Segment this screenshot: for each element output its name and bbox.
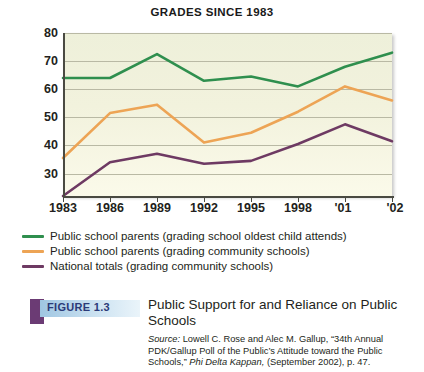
legend-item-1: Public school parents (grading community… xyxy=(22,244,422,259)
series-line-1 xyxy=(63,86,392,158)
y-tick-label-80: 80 xyxy=(32,27,58,40)
x-tick-label-1992: 1992 xyxy=(190,201,218,215)
x-tick-label-1983: 1983 xyxy=(49,201,77,215)
figure-number-label: FIGURE 1.3 xyxy=(47,301,110,313)
series-line-0 xyxy=(63,53,392,87)
plot-area xyxy=(63,33,392,196)
figure-caption-title: Public Support for and Reliance on Publi… xyxy=(148,297,416,329)
y-tick-label-50: 50 xyxy=(32,111,58,124)
legend-label-2: National totals (grading community schoo… xyxy=(50,260,273,273)
y-axis-tick-labels: 807060504030 xyxy=(30,33,58,196)
chart-title: GRADES SINCE 1983 xyxy=(0,6,424,18)
series-lines xyxy=(63,33,392,196)
x-tick-label-01: '01 xyxy=(335,201,352,215)
y-tick-label-60: 60 xyxy=(32,83,58,96)
source-text-2: (September 2002), p. 47. xyxy=(264,357,370,367)
x-tick-label-1989: 1989 xyxy=(143,201,171,215)
x-tick-label-1998: 1998 xyxy=(284,201,312,215)
y-tick-label-70: 70 xyxy=(32,55,58,68)
legend-swatch-1 xyxy=(22,250,44,253)
legend-item-0: Public school parents (grading school ol… xyxy=(22,229,422,244)
legend-swatch-2 xyxy=(22,265,44,268)
source-journal: Phi Delta Kappan, xyxy=(189,357,264,367)
y-axis-line xyxy=(63,33,65,197)
figure-source-note: Source: Lowell C. Rose and Alec M. Gallu… xyxy=(148,334,420,369)
x-tick-label-1986: 1986 xyxy=(96,201,124,215)
legend-label-1: Public school parents (grading community… xyxy=(50,245,310,258)
figure-page: GRADES SINCE 1983 Percent A and B 807060… xyxy=(0,0,424,372)
series-line-2 xyxy=(63,124,392,196)
legend-swatch-0 xyxy=(22,235,44,238)
y-tick-label-40: 40 xyxy=(32,139,58,152)
legend-label-0: Public school parents (grading school ol… xyxy=(50,230,347,243)
x-tick-label-1995: 1995 xyxy=(237,201,265,215)
legend-item-2: National totals (grading community schoo… xyxy=(22,259,422,274)
x-tick-label-02: '02 xyxy=(387,201,404,215)
source-prefix: Source: xyxy=(148,334,180,344)
chart-legend: Public school parents (grading school ol… xyxy=(22,229,422,274)
y-tick-label-30: 30 xyxy=(32,168,58,181)
